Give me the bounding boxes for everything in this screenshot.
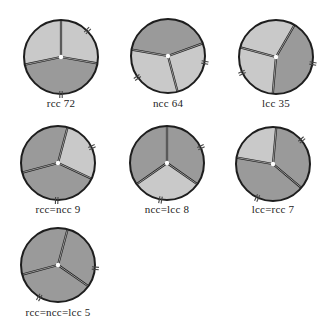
valve-0 [18,14,104,100]
valve-label: lcc 35 [221,97,331,109]
coronary-ostium-marker [92,267,99,268]
coronary-ostium-marker [92,269,99,270]
orifice [271,162,275,166]
valve-label: rcc=ncc=lcc 5 [3,306,113,318]
valve-label: ncc=lcc 8 [112,203,222,215]
valve-2 [233,14,319,100]
valve-label: lcc=rcc 7 [218,203,328,215]
valve-3 [15,120,101,206]
valve-6 [15,222,101,308]
valve-label: rcc=ncc 9 [3,203,113,215]
valve-5 [230,121,316,207]
valve-4 [124,120,210,206]
orifice [166,54,170,58]
valve-label: ncc 64 [113,97,223,109]
valve-1 [125,13,211,99]
orifice [274,55,278,59]
valve-label: rcc 72 [6,97,116,109]
orifice [56,263,60,267]
orifice [59,55,63,59]
orifice [165,161,169,165]
orifice [56,161,60,165]
